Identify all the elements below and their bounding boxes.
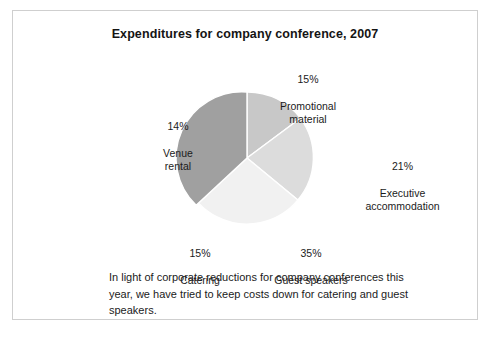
figure-frame: Expenditures for company conference, 200… — [12, 10, 478, 320]
pie-label-promotional-material-name: Promotional material — [253, 100, 363, 127]
figure-caption: In light of corporate reductions for com… — [109, 269, 429, 319]
pie-label-executive-accommodation-percent: 21% — [335, 160, 470, 174]
pie-label-executive-accommodation: 21% Executive accommodation — [335, 146, 470, 227]
pie-label-venue-rental-percent: 14% — [131, 120, 225, 134]
pie-label-venue-rental-name: Venue rental — [131, 147, 225, 174]
pie-label-promotional-material: 15% Promotional material — [253, 59, 363, 140]
pie-label-venue-rental: 14% Venue rental — [131, 106, 225, 187]
pie-chart: 15% Promotional material 21% Executive a… — [13, 11, 479, 261]
pie-label-executive-accommodation-name: Executive accommodation — [335, 187, 470, 214]
pie-label-guest-speakers-percent: 35% — [253, 247, 369, 261]
pie-label-catering-percent: 15% — [151, 247, 249, 261]
pie-label-promotional-material-percent: 15% — [253, 73, 363, 87]
